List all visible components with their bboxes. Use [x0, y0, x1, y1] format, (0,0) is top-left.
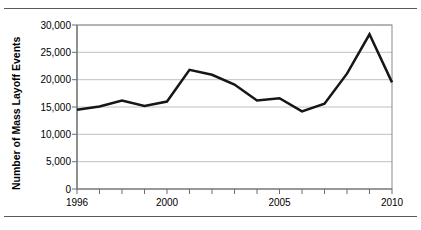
x-tick-label: 2005 — [268, 197, 291, 208]
x-axis-tick-marks — [77, 189, 392, 194]
y-tick-label: 0 — [65, 184, 71, 195]
x-axis-tick-labels: 1996 2000 2005 2010 — [66, 197, 404, 208]
figure-container: Number of Mass Layoff Events 0 5,000 10,… — [0, 0, 421, 230]
x-tick-label: 2010 — [381, 197, 404, 208]
y-tick-label: 10,000 — [40, 129, 71, 140]
y-tick-label: 30,000 — [40, 20, 71, 31]
y-tick-label: 20,000 — [40, 74, 71, 85]
data-series-line — [77, 34, 392, 111]
bottom-rule-divider — [4, 216, 417, 217]
y-axis-tick-marks — [72, 25, 77, 189]
y-tick-label: 15,000 — [40, 102, 71, 113]
line-chart: Number of Mass Layoff Events 0 5,000 10,… — [0, 14, 421, 210]
top-rule-divider — [4, 8, 417, 9]
y-tick-label: 5,000 — [46, 156, 71, 167]
gridlines — [77, 25, 392, 162]
y-axis-title: Number of Mass Layoff Events — [10, 36, 22, 190]
x-tick-label: 2000 — [156, 197, 179, 208]
chart-plot-area: Number of Mass Layoff Events 0 5,000 10,… — [0, 14, 421, 210]
x-tick-label: 1996 — [66, 197, 89, 208]
y-tick-label: 25,000 — [40, 47, 71, 58]
y-axis-tick-labels: 0 5,000 10,000 15,000 20,000 25,000 30,0… — [40, 20, 71, 195]
